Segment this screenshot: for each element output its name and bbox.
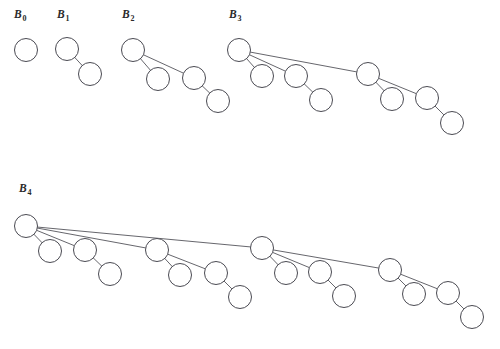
tree-edge	[74, 57, 82, 66]
tree-edge	[435, 106, 444, 115]
tree-node	[15, 215, 38, 238]
tree-edge	[328, 280, 336, 288]
edge-group	[74, 57, 82, 66]
tree-edge	[93, 258, 102, 267]
tree-node	[79, 63, 102, 86]
tree-node	[99, 263, 122, 286]
tree-label-subscript: 3	[237, 14, 242, 23]
tree-label-subscript: 2	[130, 14, 135, 23]
tree-node	[229, 286, 252, 309]
tree-node	[183, 67, 206, 90]
node-group	[122, 39, 230, 113]
tree-node	[146, 239, 169, 262]
tree-label-base: B	[229, 8, 237, 20]
node-group	[15, 39, 38, 62]
binomial-trees-figure: B0B1B2B3B4	[0, 0, 500, 349]
tree-node	[56, 38, 79, 61]
node-group	[228, 39, 464, 135]
tree-node	[169, 264, 192, 287]
tree-edge	[270, 256, 279, 265]
tree-node	[333, 285, 356, 308]
tree-label-base: B	[57, 8, 65, 20]
tree-label-b2: B2	[122, 8, 135, 23]
tree-label-base: B	[122, 8, 130, 20]
tree-edge	[34, 234, 43, 243]
binomial-tree-b2	[122, 39, 230, 113]
tree-node	[275, 262, 298, 285]
tree-label-subscript: 4	[27, 188, 32, 197]
tree-label-b1: B1	[57, 8, 70, 23]
tree-edge	[398, 278, 406, 286]
tree-node	[207, 90, 230, 113]
tree-node	[461, 306, 484, 329]
tree-node	[228, 39, 251, 62]
binomial-tree-b4	[15, 215, 484, 329]
tree-node	[122, 39, 145, 62]
tree-label-b4: B4	[19, 182, 32, 197]
tree-edge	[37, 227, 251, 247]
tree-edge	[202, 86, 210, 94]
tree-node	[15, 39, 38, 62]
binomial-tree-b3	[228, 39, 464, 135]
tree-label-subscript: 0	[22, 14, 27, 23]
binomial-tree-b0	[15, 39, 38, 62]
tree-node	[147, 68, 170, 91]
tree-node	[205, 262, 228, 285]
tree-node	[39, 240, 62, 263]
tree-node	[381, 88, 404, 111]
binomial-tree-b1	[56, 38, 102, 86]
tree-edge	[224, 281, 232, 289]
tree-label-subscript: 1	[65, 14, 70, 23]
tree-edge	[246, 58, 254, 68]
tree-label-base: B	[19, 182, 27, 194]
tree-label-b0: B0	[14, 8, 27, 23]
tree-edge	[140, 58, 151, 70]
tree-node	[251, 237, 274, 260]
tree-node	[357, 63, 380, 86]
binomial-trees-canvas	[0, 0, 500, 349]
tree-edge	[376, 82, 385, 91]
tree-edge	[164, 258, 172, 267]
tree-node	[251, 65, 274, 88]
tree-label-b3: B3	[229, 8, 242, 23]
tree-node	[416, 87, 439, 110]
edge-group	[246, 52, 444, 115]
tree-edge	[304, 84, 313, 93]
tree-node	[379, 259, 402, 282]
tree-node	[285, 65, 308, 88]
tree-edge	[456, 301, 464, 309]
tree-label-base: B	[14, 8, 22, 20]
tree-node	[403, 283, 426, 306]
tree-node	[310, 89, 333, 112]
tree-node	[437, 282, 460, 305]
tree-node	[441, 112, 464, 135]
tree-node	[309, 261, 332, 284]
tree-node	[74, 239, 97, 262]
